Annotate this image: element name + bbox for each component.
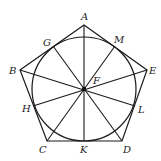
label-F: F bbox=[92, 75, 101, 86]
label-E: E bbox=[148, 65, 157, 76]
label-C: C bbox=[39, 144, 47, 155]
segment-E-H bbox=[33, 70, 147, 106]
label-A: A bbox=[80, 11, 88, 22]
label-M: M bbox=[113, 34, 125, 45]
segment-D-G bbox=[53, 46, 122, 141]
center-point-F bbox=[82, 87, 86, 91]
label-B: B bbox=[8, 65, 16, 76]
pentagon-incircle-diagram: A G M B E F H L C K D bbox=[0, 0, 161, 161]
label-L: L bbox=[137, 104, 145, 115]
label-D: D bbox=[122, 144, 131, 155]
segment-B-L bbox=[20, 70, 135, 106]
label-K: K bbox=[79, 144, 88, 155]
label-G: G bbox=[43, 37, 51, 48]
segment-C-M bbox=[47, 46, 115, 141]
label-H: H bbox=[21, 103, 31, 114]
